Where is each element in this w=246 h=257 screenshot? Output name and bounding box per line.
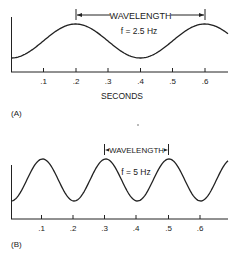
scan-artifact-dot [137,124,139,126]
frequency-label-b: f = 5 Hz [121,167,151,177]
svg-text:.1: .1 [40,77,47,86]
svg-text:.3: .3 [105,77,112,86]
panel-label-a: (A) [11,109,22,118]
svg-text:.5: .5 [165,224,172,233]
svg-text:.5: .5 [169,77,176,86]
panel-b: WAVELENGTH f = 5 Hz .1 .2 .3 .4 .5 .6 (B… [11,144,228,249]
panel-label-b: (B) [11,240,22,249]
wavelength-diagram: WAVELENGTH f = 2.5 Hz .1 .2 .3 .4 .5 .6 … [0,0,246,257]
x-ticks-a [44,68,206,72]
sine-wave-b [11,159,228,201]
frequency-label-a: f = 2.5 Hz [121,26,158,36]
x-axis-title-a: SECONDS [101,91,143,101]
svg-text:.4: .4 [133,224,140,233]
tick-labels-b: .1 .2 .3 .4 .5 .6 [38,224,204,233]
wavelength-label-b: WAVELENGTH [109,146,164,155]
tick-labels-a: .1 .2 .3 .4 .5 .6 [40,77,209,86]
panel-a: WAVELENGTH f = 2.5 Hz .1 .2 .3 .4 .5 .6 … [11,9,228,118]
sine-wave-a [11,24,228,58]
svg-text:.6: .6 [202,77,209,86]
svg-text:.2: .2 [70,224,77,233]
svg-text:.3: .3 [101,224,108,233]
svg-text:.1: .1 [38,224,45,233]
svg-text:.4: .4 [137,77,144,86]
wavelength-label-a: WAVELENGTH [109,11,171,21]
x-ticks-b [42,215,201,219]
svg-text:.2: .2 [73,77,80,86]
svg-text:.6: .6 [197,224,204,233]
